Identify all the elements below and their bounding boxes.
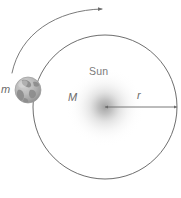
motion-arrow-icon xyxy=(12,9,102,73)
sun-label: Sun xyxy=(89,66,108,77)
orbit-radius-label: r xyxy=(137,90,141,101)
sun-mass-label: M xyxy=(68,92,77,103)
earth-mass-label: m xyxy=(1,84,10,95)
diagram-canvas xyxy=(0,0,181,198)
earth-globe-icon xyxy=(15,77,41,103)
orbit-diagram: Sun M r m xyxy=(0,0,181,198)
